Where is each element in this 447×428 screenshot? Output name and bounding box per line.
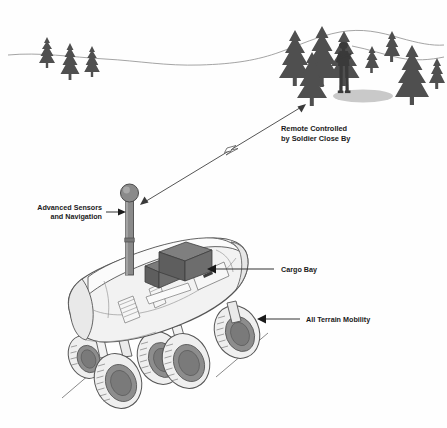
sensor-head-icon (121, 184, 139, 202)
callout-all-terrain-mobility-label: All Terrain Mobility (306, 315, 370, 324)
sensor-head-highlight (123, 187, 130, 194)
mast-joint (125, 238, 134, 242)
callout-advanced-sensors-line1: Advanced Sensors (37, 203, 102, 212)
illustration-canvas: Remote Controlled by Soldier Close By (0, 0, 447, 428)
callout-advanced-sensors-line2: and Navigation (50, 212, 102, 221)
mast-highlight (126, 199, 128, 275)
callout-cargo-bay-label: Cargo Bay (281, 265, 317, 274)
callout-remote-control-line2: by Soldier Close By (281, 134, 351, 143)
callout-remote-control-line1: Remote Controlled (281, 124, 348, 133)
callout-remote-control: Remote Controlled by Soldier Close By (281, 124, 351, 143)
